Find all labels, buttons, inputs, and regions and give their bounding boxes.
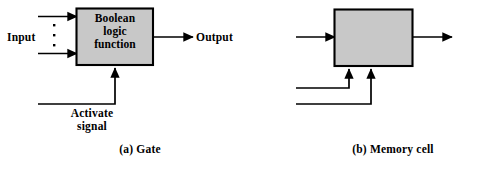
gate-box-label: Boolean logic function bbox=[77, 12, 153, 52]
gate-activate-label-line-1: Activate bbox=[55, 107, 129, 120]
gate-box-label-line-1: Boolean bbox=[77, 12, 153, 25]
gate-activate-signal-label: Activate signal bbox=[55, 107, 129, 134]
gate-box-label-line-2: logic bbox=[77, 25, 153, 38]
gate-box-label-line-3: function bbox=[77, 38, 153, 51]
figure-gate-and-memory-cell: Boolean logic function Input Output Acti… bbox=[0, 0, 495, 173]
caption-memory-cell: (b) Memory cell bbox=[318, 143, 468, 155]
gate-output-label: Output bbox=[196, 31, 233, 44]
gate-input-label: Input bbox=[7, 31, 36, 44]
gate-activate-label-line-2: signal bbox=[55, 120, 129, 133]
caption-gate: (a) Gate bbox=[80, 143, 200, 155]
